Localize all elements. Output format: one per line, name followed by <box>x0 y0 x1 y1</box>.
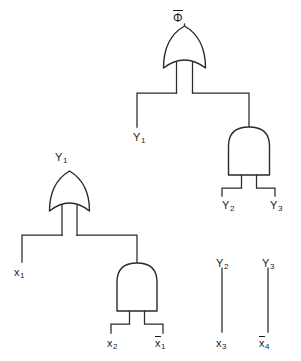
and-bottom-input-x1bar-route <box>145 311 164 333</box>
label-y3-standalone-sub: 3 <box>270 262 274 271</box>
label-y2-and-input-sub: 2 <box>230 204 234 213</box>
label-x1-input-base: x <box>14 266 20 278</box>
and-gate-bottom <box>117 263 157 311</box>
label-x2-input: x2 <box>107 338 118 351</box>
label-y3-and-input-sub: 3 <box>278 204 282 213</box>
label-x4-bar-standalone: x4 <box>259 336 270 351</box>
label-x1-input-sub: 1 <box>20 271 24 280</box>
circuit-schematic-svg <box>0 0 301 361</box>
label-x1-bar-input-base: x <box>155 336 161 349</box>
label-y2-and-input: Y2 <box>222 200 234 213</box>
label-y1-wire-base: Y <box>133 131 141 143</box>
label-output-phi: Φ <box>173 10 183 24</box>
and-right-input-y2-route <box>222 175 242 196</box>
and-gate-right <box>229 127 270 175</box>
and-bottom-input-x2-route <box>111 311 130 333</box>
label-y1-wire: Y1 <box>133 132 145 145</box>
label-x2-input-sub: 2 <box>113 342 117 351</box>
label-x4-bar-standalone-base: x <box>259 336 265 349</box>
label-x3-standalone-base: x <box>216 337 222 349</box>
label-y3-standalone-base: Y <box>262 257 270 269</box>
or-top-input-left-route <box>137 93 177 127</box>
label-y1-gate-base: Y <box>55 151 63 163</box>
or-left-input-x1-route <box>22 235 62 262</box>
and-right-input-y3-route <box>257 175 276 196</box>
or-left-input-and-route <box>77 235 137 263</box>
label-y1-wire-sub: 1 <box>141 136 145 145</box>
label-y1-gate: Y1 <box>55 152 67 165</box>
label-y1-gate-sub: 1 <box>63 156 67 165</box>
label-output-phi-text: Φ <box>173 10 183 24</box>
label-x1-input: x1 <box>14 267 25 280</box>
label-y2-standalone-sub: 2 <box>224 262 228 271</box>
label-x3-standalone-sub: 3 <box>222 342 226 351</box>
or-gate-left <box>50 171 90 211</box>
label-y2-standalone-base: Y <box>216 257 224 269</box>
label-x1-bar-input-sub: 1 <box>161 342 165 351</box>
label-y3-and-input: Y3 <box>270 200 282 213</box>
label-x1-bar-input: x1 <box>155 336 166 351</box>
label-y2-and-input-base: Y <box>222 199 230 211</box>
label-x4-bar-standalone-sub: 4 <box>265 342 269 351</box>
label-y3-and-input-base: Y <box>270 199 278 211</box>
label-x3-standalone: x3 <box>216 338 227 351</box>
label-y2-standalone: Y2 <box>216 258 228 271</box>
logic-circuit-diagram: Φ Y1 Y1 Y2 Y3 x1 x2 x1 Y2 Y3 x3 x4 <box>0 0 301 361</box>
or-top-input-right-route <box>193 93 250 127</box>
label-y3-standalone: Y3 <box>262 258 274 271</box>
label-x2-input-base: x <box>107 337 113 349</box>
or-gate-top <box>164 26 206 68</box>
